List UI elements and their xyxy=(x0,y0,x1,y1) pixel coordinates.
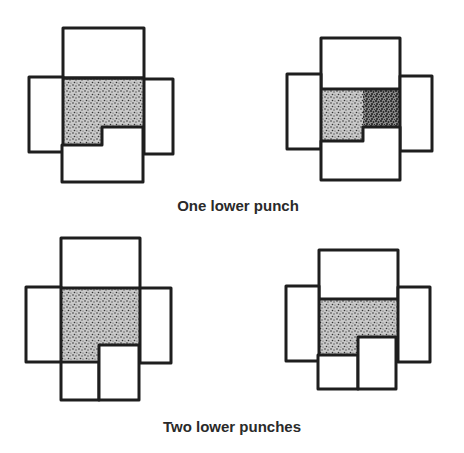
upper-punch xyxy=(319,250,398,299)
die-right xyxy=(398,287,430,362)
powder-fill-light xyxy=(322,89,364,141)
panel-one-punch-after xyxy=(287,38,432,180)
powder-fill-dense xyxy=(363,89,400,127)
die-left xyxy=(286,286,319,361)
lower-punch-outer xyxy=(61,362,99,400)
die-right xyxy=(144,79,173,154)
panel-two-punch-before xyxy=(26,238,171,400)
die-right xyxy=(400,76,432,151)
die-left xyxy=(26,287,61,362)
die-left xyxy=(287,74,321,149)
die-right xyxy=(140,288,171,363)
compaction-diagram xyxy=(0,0,464,453)
caption-one-lower-punch: One lower punch xyxy=(158,197,318,214)
upper-punch xyxy=(61,238,140,288)
upper-punch xyxy=(63,28,144,78)
upper-punch xyxy=(321,38,400,89)
die-left xyxy=(29,77,63,152)
lower-punch-outer xyxy=(318,355,358,389)
caption-two-lower-punches: Two lower punches xyxy=(144,418,320,435)
panel-one-punch-before xyxy=(29,28,173,182)
panel-two-punch-after xyxy=(286,250,430,389)
lower-punch-inner xyxy=(99,345,139,400)
lower-punch-inner xyxy=(358,337,396,389)
